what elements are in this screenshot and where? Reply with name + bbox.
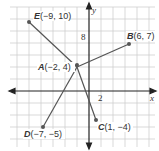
point-B [127, 42, 131, 46]
label-E: E(−9, 10) [34, 11, 71, 21]
coordinate-diagram: x y 2 8 E(−9, 10) B(6, 7) A(−2, 4) D(−7,… [0, 0, 159, 151]
grid [10, 7, 155, 147]
label-B: B(6, 7) [127, 31, 155, 41]
segment-AC [77, 67, 96, 120]
segments [29, 22, 129, 127]
points [27, 20, 131, 129]
segment-AB [77, 44, 129, 67]
point-E [27, 20, 31, 24]
label-A: A(−2, 4) [37, 62, 71, 72]
y-tick-label: 8 [81, 32, 86, 42]
point-A [75, 63, 79, 67]
x-axis-label: x [149, 93, 154, 103]
label-D: D(−7, −5) [24, 129, 62, 139]
y-axis-label: y [91, 5, 96, 15]
label-C: C(1, −4) [98, 122, 131, 132]
segment-AD [43, 67, 77, 127]
point-labels: E(−9, 10) B(6, 7) A(−2, 4) D(−7, −5) C(1… [23, 11, 158, 139]
x-tick-label: 2 [98, 93, 103, 103]
